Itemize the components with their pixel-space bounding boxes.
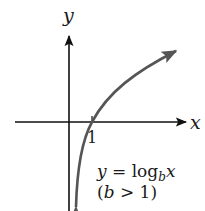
y-axis-label: y xyxy=(62,4,74,26)
equation-x: x xyxy=(166,161,176,181)
condition-rest: > 1) xyxy=(115,182,158,202)
condition-open: ( xyxy=(97,182,104,202)
equation-log: = log xyxy=(107,161,159,181)
condition-label: (b > 1) xyxy=(97,182,157,202)
log-graph: y x 1 y = logbx (b > 1) xyxy=(0,0,205,211)
equation-label: y = logbx xyxy=(96,161,176,184)
tick-label-one: 1 xyxy=(87,128,97,147)
equation-base: b xyxy=(158,170,166,184)
equation-y: y xyxy=(96,161,107,181)
x-axis-label: x xyxy=(190,111,201,133)
condition-b: b xyxy=(104,182,115,202)
